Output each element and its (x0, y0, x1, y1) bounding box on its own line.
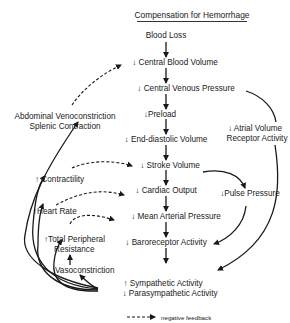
node-tpr-line1: ↑Total Peripheral (44, 235, 105, 245)
node-pulse-pressure: ↓Pulse Pressure (220, 189, 280, 199)
node-end-diastolic-volume: ↓ End-diastolic Volume (125, 135, 208, 145)
node-central-blood-volume: ↓ Central Blood Volume (132, 58, 218, 68)
node-cardiac-output: ↓ Cardiac Output (135, 186, 196, 196)
node-mean-arterial-pressure: ↓ Mean Arterial Pressure (131, 212, 221, 222)
node-central-venous-pressure: ↓ Central Venous Pressure (137, 84, 234, 94)
node-vasoconstriction: Vasoconstriction (55, 266, 114, 276)
node-baroreceptor-activity: ↓ Baroreceptor Activity (125, 238, 206, 248)
node-blood-loss: Blood Loss (146, 31, 187, 41)
node-heart-rate: ↑Heart Rate (33, 207, 77, 217)
node-abdominal-venoconstriction: Abdominal Venoconstriction (14, 112, 115, 122)
node-atrial-volume-line2: Receptor Activity (227, 134, 288, 144)
legend-negative-feedback: negative feedback (161, 313, 211, 323)
node-splenic-contraction: Splenic Contraction (30, 122, 101, 132)
node-stroke-volume: ↓ Stroke Volume (140, 161, 200, 171)
node-preload: ↓Preload (144, 110, 176, 120)
node-contractility: ↑ Contractility (35, 175, 84, 185)
node-tpr-line2: Resistance (54, 245, 95, 255)
node-sympathetic-activity: ↑ Sympathetic Activity (123, 279, 202, 289)
node-parasympathetic-activity: ↓ Parasympathetic Activity (122, 289, 217, 299)
node-atrial-volume-line1: ↓ Atrial Volume (228, 124, 282, 134)
diagram-title: Compensation for Hemorrhage (135, 10, 250, 20)
title-underline (137, 21, 247, 22)
